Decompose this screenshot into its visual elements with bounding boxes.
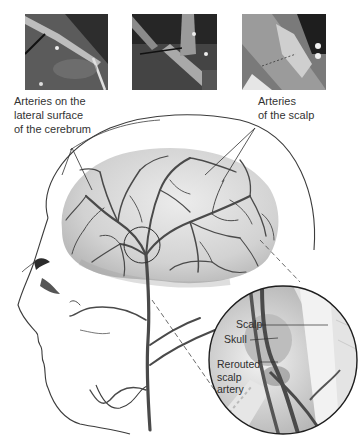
inset-label-scalp: Scalp — [236, 318, 262, 331]
dashed-leader — [152, 300, 218, 395]
label-cerebrum-arteries: Arteries on the lateral surface of the c… — [14, 94, 91, 136]
inset-label-skull: Skull — [224, 333, 247, 346]
head-diagram — [0, 0, 362, 442]
label-scalp-arteries: Arteries of the scalp — [258, 94, 314, 122]
scalp-arteries — [70, 301, 215, 404]
inset-label-rerouted-artery: Rerouted scalp artery — [217, 358, 260, 396]
eye — [34, 258, 60, 294]
